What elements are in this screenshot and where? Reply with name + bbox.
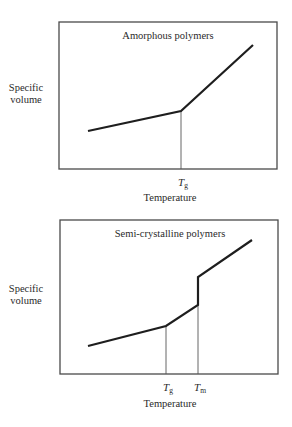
y-axis-label-line2: volume — [1, 94, 51, 106]
plot-frame — [59, 22, 277, 169]
y-axis-label-line1: Specific — [1, 283, 51, 295]
tick-label-Tg: Tg — [163, 381, 173, 397]
x-axis-label: Temperature — [144, 398, 197, 410]
tick-label-Tm: Tm — [194, 381, 206, 397]
plot-area — [0, 210, 292, 420]
y-axis-label-line2: volume — [1, 295, 51, 307]
y-axis-label-line1: Specific — [1, 82, 51, 94]
graph-title: Amorphous polymers — [122, 30, 213, 42]
plot-frame — [60, 220, 278, 374]
y-axis-label: Specific volume — [1, 283, 51, 307]
x-axis-label: Temperature — [144, 192, 197, 204]
specific-volume-curve — [88, 45, 253, 131]
graph-title: Semi-crystalline polymers — [115, 228, 226, 240]
y-axis-label: Specific volume — [1, 82, 51, 106]
tick-label-Tg: Tg — [178, 176, 188, 192]
specific-volume-curve — [88, 240, 252, 346]
